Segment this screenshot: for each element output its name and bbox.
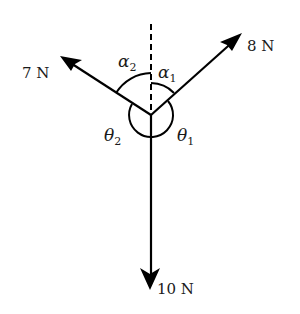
angle-label-alpha2: α2 bbox=[118, 51, 136, 74]
force-label-10n: 10 N bbox=[157, 280, 194, 298]
force-arrow-7n bbox=[60, 56, 151, 115]
angle-label-theta1: θ1 bbox=[177, 125, 194, 148]
force-arrow-10n bbox=[140, 115, 160, 290]
angle-label-theta2: θ2 bbox=[104, 125, 121, 148]
angle-label-alpha1: α1 bbox=[158, 62, 176, 85]
force-label-8n: 8 N bbox=[247, 37, 274, 55]
force-label-7n: 7 N bbox=[22, 64, 49, 82]
alpha2-arc bbox=[116, 73, 151, 93]
force-diagram: 8 N 7 N 10 N α2 α1 θ2 θ1 bbox=[0, 0, 300, 314]
